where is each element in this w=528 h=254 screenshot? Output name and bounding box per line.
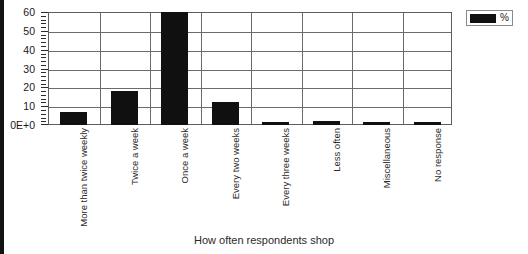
y-tick-label: 60 xyxy=(23,7,35,17)
bar-twice-a-week[interactable] xyxy=(111,91,138,125)
x-category-label: Once a week xyxy=(179,127,191,232)
bar-less-often[interactable] xyxy=(313,121,340,125)
bar-miscellaneous[interactable] xyxy=(363,122,390,125)
x-category-label: No response xyxy=(432,127,444,232)
y-axis-ticks xyxy=(41,12,48,125)
x-category-label: Every two weeks xyxy=(230,127,242,232)
y-tick-label: 30 xyxy=(23,64,35,74)
y-tick-label: 40 xyxy=(23,45,35,55)
bar-chart-figure: 60 50 40 30 20 10 0E+0 xyxy=(0,0,528,254)
legend-swatch-percent xyxy=(470,14,496,23)
x-category-label: More than twice weekly xyxy=(78,127,90,232)
bar-every-two-weeks[interactable] xyxy=(212,102,239,125)
legend: % xyxy=(466,10,513,26)
x-category-label: Miscellaneous xyxy=(381,127,393,232)
bar-no-response[interactable] xyxy=(414,122,441,125)
bar-every-three-weeks[interactable] xyxy=(262,122,289,125)
x-category-label: Every three weeks xyxy=(280,127,292,232)
bar-more-than-twice-weekly[interactable] xyxy=(60,112,87,125)
legend-label-percent: % xyxy=(500,13,509,23)
y-tick-label: 10 xyxy=(23,101,35,111)
y-tick-label: 20 xyxy=(23,82,35,92)
y-tick-label: 50 xyxy=(23,26,35,36)
bars-layer xyxy=(48,12,452,125)
x-category-label: Less often xyxy=(331,127,343,232)
x-axis-title: How often respondents shop xyxy=(0,234,528,246)
y-tick-label: 0E+0 xyxy=(10,120,35,130)
x-axis-category-labels: More than twice weekly Twice a week Once… xyxy=(48,127,452,232)
x-category-label: Twice a week xyxy=(129,127,141,232)
bar-once-a-week[interactable] xyxy=(161,12,188,125)
